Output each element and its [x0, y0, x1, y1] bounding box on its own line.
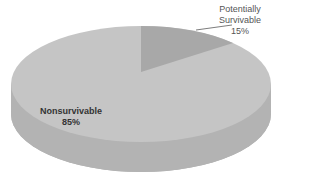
label-pct: 15%	[205, 26, 275, 37]
label-line: Nonsurvivable	[36, 106, 106, 117]
label-pct: 85%	[36, 117, 106, 128]
label-nonsurvivable: Nonsurvivable 85%	[36, 106, 106, 128]
label-potentially-survivable: Potentially Survivable 15%	[205, 4, 275, 37]
label-line: Potentially	[205, 4, 275, 15]
label-line: Survivable	[205, 15, 275, 26]
